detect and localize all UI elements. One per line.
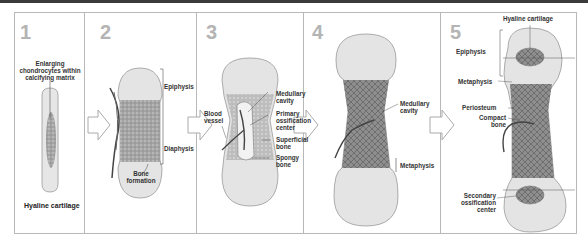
panel-5-bone xyxy=(497,25,575,232)
label-line: Primary xyxy=(276,110,311,117)
label-line: Compact xyxy=(464,114,506,121)
label-diaphysis: Diaphysis xyxy=(164,145,194,152)
panel-3-number: 3 xyxy=(206,21,217,44)
arrow-1-2 xyxy=(88,110,110,140)
panel-2-number: 2 xyxy=(100,21,111,44)
label-line: calcifying matrix xyxy=(16,74,84,81)
label-line: Enlarging xyxy=(16,60,84,67)
panel-4-bone xyxy=(334,34,398,226)
label-medullary-cavity-4: Medullary cavity xyxy=(400,100,429,114)
label-line: ossification xyxy=(276,117,311,124)
arrow-4-5 xyxy=(430,110,454,140)
label-line: cavity xyxy=(276,97,305,104)
label-medullary-cavity: Medullary cavity xyxy=(276,90,305,104)
label-line: center xyxy=(276,124,311,131)
label-line: Secondary xyxy=(452,192,496,199)
label-line: bone xyxy=(464,121,506,128)
label-line: chondrocytes within xyxy=(16,67,84,74)
label-periosteum: Periosteum xyxy=(462,104,496,111)
label-compact-bone: Compact bone xyxy=(464,114,506,128)
label-line: Medullary xyxy=(400,100,429,107)
label-line: bone xyxy=(276,161,299,168)
label-metaphysis-4: Metaphysis xyxy=(400,162,434,169)
panel-4-number: 4 xyxy=(312,21,323,44)
panel-1-number: 1 xyxy=(20,21,31,44)
label-enlarging-chondrocytes: Enlarging chondrocytes within calcifying… xyxy=(16,60,84,81)
label-line: Bone xyxy=(124,170,158,177)
label-line: ossification xyxy=(452,199,496,206)
label-superficial-bone: Superficial bone xyxy=(276,136,308,150)
label-metaphysis-5: Metaphysis xyxy=(458,78,492,85)
panel-1-cartilage xyxy=(42,80,58,192)
label-line: Superficial xyxy=(276,136,308,143)
label-line: Spongy xyxy=(276,154,299,161)
label-line: Blood xyxy=(204,110,223,117)
label-line: vessel xyxy=(204,117,223,124)
label-spongy-bone: Spongy bone xyxy=(276,154,299,168)
label-bone-formation: Bone formation xyxy=(124,170,158,184)
label-hyaline-cartilage: Hyaline cartilage xyxy=(24,202,80,209)
label-line: center xyxy=(452,206,496,213)
label-epiphysis: Epiphysis xyxy=(164,83,194,90)
label-secondary-ossification-center: Secondary ossification center xyxy=(452,192,496,213)
panel-3-bone xyxy=(222,58,278,206)
label-line: bone xyxy=(276,143,308,150)
panel-5-number: 5 xyxy=(450,21,461,44)
label-primary-ossification-center: Primary ossification center xyxy=(276,110,311,131)
label-epiphysis-5: Epiphysis xyxy=(456,48,486,55)
label-line: Medullary xyxy=(276,90,305,97)
label-line: formation xyxy=(124,177,158,184)
label-hyaline-cartilage-5: Hyaline cartilage xyxy=(503,15,553,22)
label-blood-vessel: Blood vessel xyxy=(204,110,223,124)
label-line: cavity xyxy=(400,107,429,114)
